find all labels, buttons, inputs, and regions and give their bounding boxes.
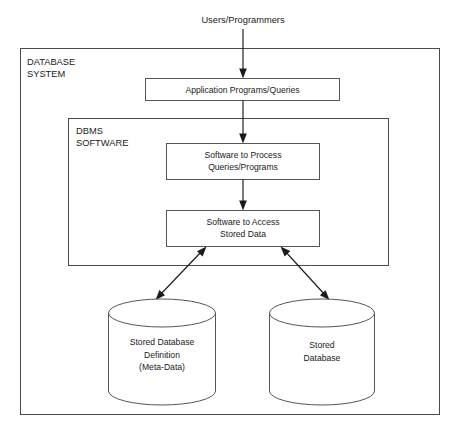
dbms-software-label-line1: DBMS [76,126,103,136]
diagram-canvas: DATABASE SYSTEM DBMS SOFTWARE Users/Prog… [0,0,459,431]
arrowhead-down-to-application-programs [239,69,247,79]
arrowhead-down-to-software-process [239,134,247,144]
connector-software-access-to-stored-database [281,247,330,301]
database-system-label-line1: DATABASE [27,57,75,67]
dbms-software-label-line2: SOFTWARE [76,138,128,148]
connector-software-access-to-meta-data [156,247,207,301]
database-system-label-line2: SYSTEM [27,69,65,79]
stored-database-definition-cylinder-top [109,299,216,327]
connector-users-to-application-programs [239,29,247,79]
arrowhead-down-to-software-access [239,201,247,211]
software-to-access-stored-data-label-line2: Stored Data [220,229,266,239]
stored-database-definition-label-line3: (Meta-Data) [139,362,185,372]
stored-database-label-line1: Stored [309,340,335,350]
users-programmers-label: Users/Programmers [201,15,285,25]
stored-database-cylinder-top [270,299,375,327]
connector-software-process-to-software-access [239,180,247,211]
connector-application-programs-to-software-process [239,101,247,144]
database-system-diagram: DATABASE SYSTEM DBMS SOFTWARE Users/Prog… [0,0,459,431]
software-to-process-queries-label-line2: Queries/Programs [208,162,278,172]
application-programs-queries-label: Application Programs/Queries [185,85,299,95]
software-to-access-stored-data-label-line1: Software to Access [206,217,279,227]
software-to-process-queries-label-line1: Software to Process [205,150,282,160]
stored-database-definition-label-line2: Definition [144,350,180,360]
stored-database-definition-label-line1: Stored Database [130,337,195,347]
stored-database-label-line2: Database [304,353,341,363]
